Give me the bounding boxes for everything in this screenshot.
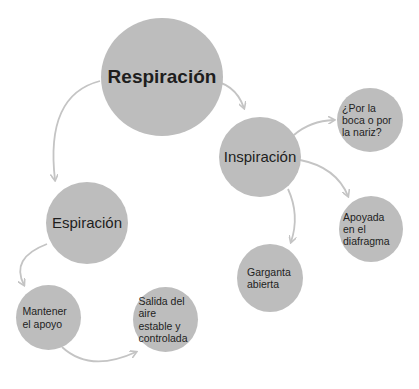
node-garganta[interactable]: Garganta abierta [237,244,303,312]
node-inspiracion[interactable]: Inspiración [219,117,301,197]
node-mantener[interactable]: Mantener el apoyo [16,285,81,350]
node-espiracion[interactable]: Espiración [46,182,128,264]
node-label: Salida del aire estable y controlada [139,295,193,343]
node-respiracion[interactable]: Respiración [101,18,223,136]
node-salida[interactable]: Salida del aire estable y controlada [133,287,198,352]
node-label: ¿Por la boca o por la nariz? [342,102,398,138]
arrow-mantener-salida [62,347,136,361]
arrow-respiracion-espiracion [53,81,100,180]
node-boca-nariz[interactable]: ¿Por la boca o por la nariz? [337,88,403,152]
node-label: Garganta abierta [247,266,293,290]
arrow-espiracion-mantener [20,244,47,285]
arrow-inspiracion-garganta [288,189,295,242]
concept-map: Respiración Inspiración Espiración ¿Por … [0,0,419,389]
node-label: Espiración [52,214,122,231]
node-label: Inspiración [224,148,297,165]
node-label: Mantener el apoyo [23,305,75,329]
node-diafragma[interactable]: Apoyada en el diafragma [339,196,403,262]
arrow-inspiracion-diafragma [300,160,348,196]
node-label: Apoyada en el diafragma [343,211,399,247]
node-label: Respiración [108,66,217,88]
arrow-inspiracion-boca [294,120,334,135]
